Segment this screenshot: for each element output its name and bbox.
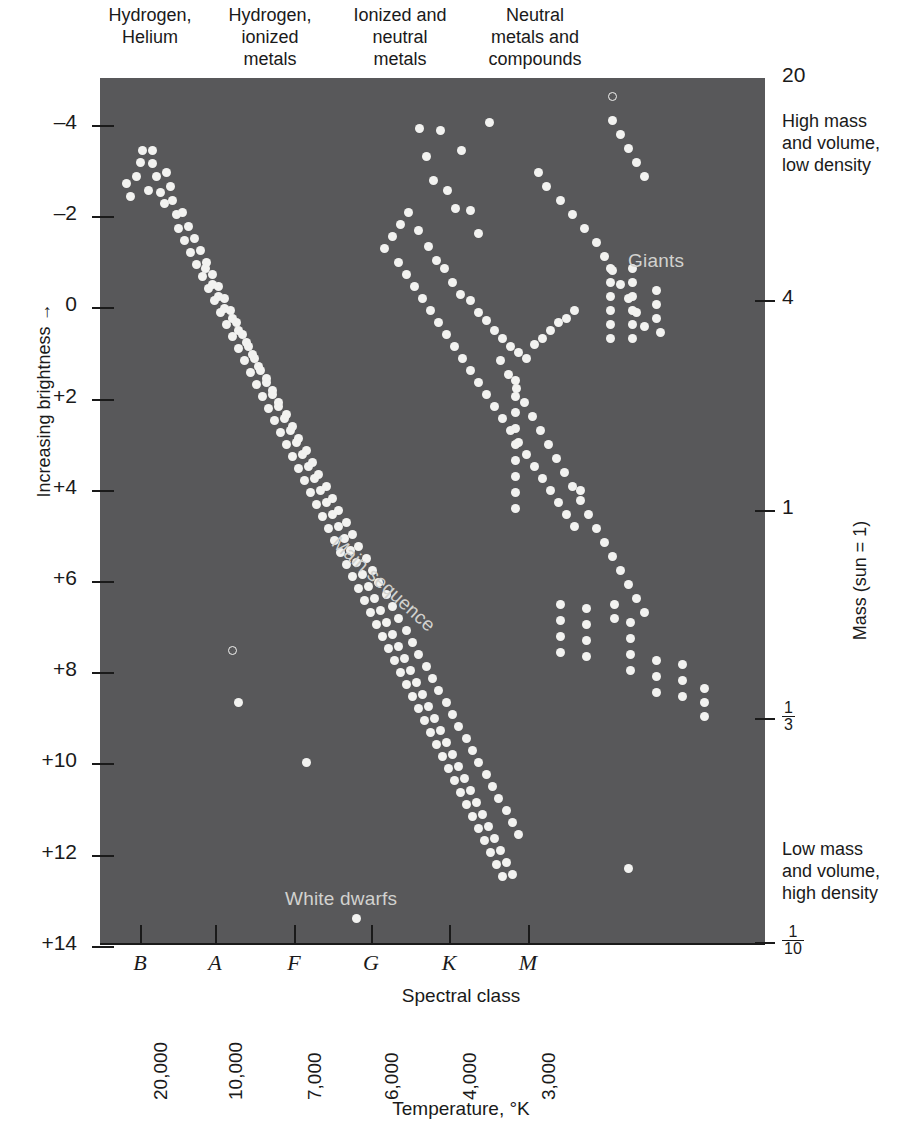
bottom-axis-tick: [371, 925, 373, 945]
star-point: [384, 644, 393, 653]
star-point: [294, 434, 303, 443]
temperature-label: 6,000: [381, 1052, 403, 1100]
star-point: [457, 146, 466, 155]
star-point: [490, 402, 499, 411]
star-point: [430, 714, 439, 723]
bottom-axis-tick: [140, 925, 142, 945]
star-point: [214, 292, 223, 301]
star-point: [494, 794, 503, 803]
star-point: [570, 306, 579, 315]
star-point: [608, 552, 617, 561]
star-point: [174, 224, 183, 233]
star-point: [404, 208, 413, 217]
star-point: [450, 776, 459, 785]
star-point: [442, 738, 451, 747]
star-point: [324, 524, 333, 533]
star-point: [442, 330, 451, 339]
star-point: [538, 474, 547, 483]
star-point: [402, 626, 411, 635]
star-point: [656, 328, 665, 337]
star-point: [626, 634, 635, 643]
star-point: [610, 614, 619, 623]
right-note-high-mass: High mass and volume, low density: [782, 110, 880, 176]
left-axis-tick: [92, 216, 114, 218]
star-point: [443, 186, 452, 195]
star-point: [442, 698, 451, 707]
star-point: [228, 646, 237, 655]
left-axis-tick-label: +14: [7, 931, 77, 955]
star-point: [492, 860, 501, 869]
star-point: [402, 680, 411, 689]
scatter-plot-area: Giants White dwarfs Main sequence: [100, 78, 765, 945]
star-point: [520, 398, 529, 407]
star-point: [406, 666, 415, 675]
star-point: [600, 538, 609, 547]
star-point: [396, 220, 405, 229]
star-point: [274, 398, 283, 407]
star-point: [632, 158, 641, 167]
star-point: [474, 824, 483, 833]
star-point: [582, 652, 591, 661]
star-point: [414, 704, 423, 713]
star-point: [600, 252, 609, 261]
top-caption-neutral-metals-compounds: Neutral metals and compounds: [455, 4, 615, 70]
star-point: [370, 594, 379, 603]
spectral-class-label: A: [185, 950, 245, 976]
star-point: [306, 488, 315, 497]
temperature-label: 4,000: [459, 1052, 481, 1100]
star-point: [511, 456, 520, 465]
star-point: [616, 566, 625, 575]
star-point: [652, 314, 661, 323]
star-point: [352, 914, 361, 923]
star-point: [300, 476, 309, 485]
star-point: [474, 229, 483, 238]
right-axis-tick-label: 1: [782, 495, 794, 519]
right-axis-tick-label: 110: [782, 924, 804, 959]
star-point: [252, 380, 261, 389]
left-axis-tick: [92, 490, 114, 492]
star-point: [448, 750, 457, 759]
star-point: [466, 366, 475, 375]
star-point: [628, 306, 637, 315]
star-point: [652, 688, 661, 697]
star-point: [608, 116, 617, 125]
star-point: [378, 632, 387, 641]
star-point: [552, 454, 561, 463]
star-point: [626, 618, 635, 627]
star-point: [436, 126, 445, 135]
star-point: [408, 638, 417, 647]
star-point: [180, 236, 189, 245]
star-point: [628, 334, 637, 343]
star-point: [624, 144, 633, 153]
star-point: [570, 522, 579, 531]
star-point: [576, 486, 585, 495]
star-point: [490, 834, 499, 843]
star-point: [394, 258, 403, 267]
star-point: [576, 496, 585, 505]
star-point: [608, 92, 617, 101]
star-point: [418, 294, 427, 303]
star-point: [522, 450, 531, 459]
star-point: [414, 650, 423, 659]
star-point: [628, 320, 637, 329]
star-point: [422, 152, 431, 161]
star-point: [428, 674, 437, 683]
left-axis-tick: [92, 307, 114, 309]
bottom-axis-tick: [449, 925, 451, 945]
star-point: [582, 620, 591, 629]
star-point: [456, 788, 465, 797]
star-point: [482, 316, 491, 325]
star-point: [616, 130, 625, 139]
star-point: [466, 786, 475, 795]
star-point: [388, 232, 397, 241]
star-point: [444, 764, 453, 773]
star-point: [484, 822, 493, 831]
star-point: [322, 482, 331, 491]
star-point: [628, 292, 637, 301]
star-point: [314, 470, 323, 479]
star-point: [511, 488, 520, 497]
star-point: [514, 348, 523, 357]
star-point: [288, 452, 297, 461]
star-point: [334, 506, 343, 515]
bottom-axis-tick: [294, 925, 296, 945]
